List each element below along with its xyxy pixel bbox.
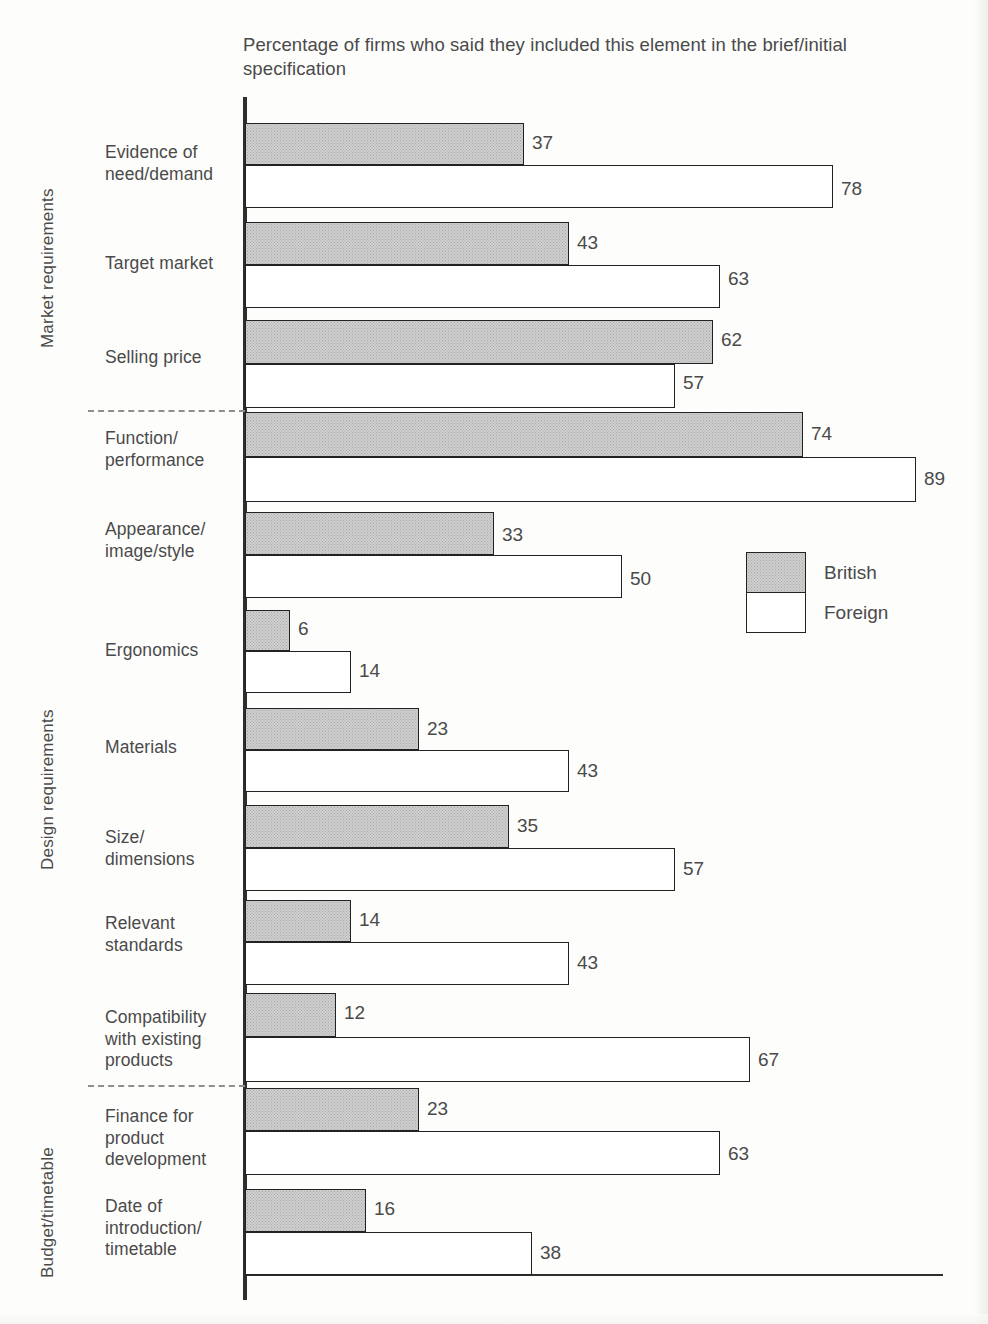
- category-label-line: Date of: [105, 1196, 245, 1218]
- bar-foreign-finance-for-product-development: [245, 1131, 720, 1175]
- category-label-line: Compatibility: [105, 1007, 245, 1029]
- category-label-compatibility-with-existing-products: Compatibility with existing products: [105, 1007, 245, 1072]
- category-label-line: image/style: [105, 541, 245, 563]
- bar-value-british-target-market: 43: [577, 232, 598, 254]
- bar-value-foreign-finance-for-product-development: 63: [728, 1143, 749, 1165]
- legend-swatch-foreign: [746, 592, 806, 633]
- bar-british-selling-price: [245, 320, 713, 364]
- bar-foreign-selling-price: [245, 364, 675, 408]
- bar-foreign-size-dimensions: [245, 848, 675, 891]
- bar-british-function-performance: [245, 412, 803, 457]
- category-label-line: Relevant: [105, 913, 245, 935]
- group-label-budget-timetable: Budget/timetable: [38, 1147, 58, 1278]
- chart-page: Percentage of firms who said they includ…: [0, 0, 988, 1324]
- bar-value-foreign-appearance-image-style: 50: [630, 568, 651, 590]
- bar-foreign-function-performance: [245, 457, 916, 502]
- bar-value-british-evidence-of-need-demand: 37: [532, 132, 553, 154]
- category-label-line: product: [105, 1128, 245, 1150]
- bar-value-british-selling-price: 62: [721, 329, 742, 351]
- category-label-line: Ergonomics: [105, 640, 245, 662]
- bar-value-foreign-size-dimensions: 57: [683, 858, 704, 880]
- legend-label-foreign: Foreign: [824, 602, 888, 624]
- category-label-line: performance: [105, 450, 245, 472]
- category-label-size-dimensions: Size/ dimensions: [105, 827, 245, 870]
- bar-foreign-appearance-image-style: [245, 555, 622, 598]
- group-separator-2: [88, 1085, 245, 1087]
- chart-title: Percentage of firms who said they includ…: [243, 33, 923, 81]
- category-label-line: products: [105, 1050, 245, 1072]
- bar-foreign-evidence-of-need-demand: [245, 165, 833, 208]
- bar-foreign-compatibility-with-existing-products: [245, 1037, 750, 1082]
- category-label-evidence-of-need-demand: Evidence of need/demand: [105, 142, 245, 185]
- category-label-selling-price: Selling price: [105, 347, 245, 369]
- bar-value-british-date-of-introduction-timetable: 16: [374, 1198, 395, 1220]
- category-label-line: Finance for: [105, 1106, 245, 1128]
- bar-british-finance-for-product-development: [245, 1088, 419, 1131]
- bar-value-british-function-performance: 74: [811, 423, 832, 445]
- bar-value-foreign-ergonomics: 14: [359, 660, 380, 682]
- bar-foreign-relevant-standards: [245, 942, 569, 985]
- bar-british-appearance-image-style: [245, 512, 494, 555]
- category-label-appearance-image-style: Appearance/ image/style: [105, 519, 245, 562]
- bar-foreign-ergonomics: [245, 651, 351, 693]
- category-label-line: with existing: [105, 1029, 245, 1051]
- bar-value-foreign-function-performance: 89: [924, 468, 945, 490]
- category-label-line: Evidence of: [105, 142, 245, 164]
- legend-swatch-british: [746, 552, 806, 593]
- bar-value-british-finance-for-product-development: 23: [427, 1098, 448, 1120]
- category-label-line: dimensions: [105, 849, 245, 871]
- category-label-line: Target market: [105, 253, 245, 275]
- category-label-line: standards: [105, 935, 245, 957]
- bar-value-foreign-target-market: 63: [728, 268, 749, 290]
- category-label-line: development: [105, 1149, 245, 1171]
- category-label-line: timetable: [105, 1239, 245, 1261]
- group-separator-1: [88, 410, 245, 412]
- category-label-finance-for-product-development: Finance for product development: [105, 1106, 245, 1171]
- category-label-line: Selling price: [105, 347, 245, 369]
- category-label-target-market: Target market: [105, 253, 245, 275]
- category-label-line: need/demand: [105, 164, 245, 186]
- bar-foreign-target-market: [245, 265, 720, 308]
- bar-british-evidence-of-need-demand: [245, 123, 524, 165]
- bar-british-size-dimensions: [245, 805, 509, 848]
- bar-british-ergonomics: [245, 610, 290, 651]
- page-edge-bottom: [0, 1314, 988, 1324]
- bar-value-british-relevant-standards: 14: [359, 909, 380, 931]
- category-label-line: Appearance/: [105, 519, 245, 541]
- category-label-materials: Materials: [105, 737, 245, 759]
- bar-value-foreign-materials: 43: [577, 760, 598, 782]
- group-label-market-requirements: Market requirements: [38, 188, 58, 348]
- bar-foreign-materials: [245, 750, 569, 792]
- category-label-relevant-standards: Relevant standards: [105, 913, 245, 956]
- bar-british-date-of-introduction-timetable: [245, 1189, 366, 1232]
- bar-value-british-appearance-image-style: 33: [502, 524, 523, 546]
- bar-british-relevant-standards: [245, 900, 351, 942]
- bar-foreign-date-of-introduction-timetable: [245, 1232, 532, 1275]
- bar-british-compatibility-with-existing-products: [245, 993, 336, 1037]
- bar-value-foreign-compatibility-with-existing-products: 67: [758, 1049, 779, 1071]
- bar-value-foreign-relevant-standards: 43: [577, 952, 598, 974]
- category-label-line: Materials: [105, 737, 245, 759]
- category-label-line: introduction/: [105, 1218, 245, 1240]
- bar-british-materials: [245, 708, 419, 750]
- bar-value-british-size-dimensions: 35: [517, 815, 538, 837]
- category-label-line: Size/: [105, 827, 245, 849]
- bar-british-target-market: [245, 222, 569, 265]
- category-label-ergonomics: Ergonomics: [105, 640, 245, 662]
- bar-value-british-ergonomics: 6: [298, 618, 309, 640]
- page-edge-right: [974, 0, 988, 1324]
- category-label-function-performance: Function/ performance: [105, 428, 245, 471]
- bar-value-foreign-date-of-introduction-timetable: 38: [540, 1242, 561, 1264]
- bar-value-foreign-selling-price: 57: [683, 372, 704, 394]
- category-label-date-of-introduction-timetable: Date of introduction/ timetable: [105, 1196, 245, 1261]
- category-label-line: Function/: [105, 428, 245, 450]
- bar-value-foreign-evidence-of-need-demand: 78: [841, 178, 862, 200]
- bar-value-british-compatibility-with-existing-products: 12: [344, 1002, 365, 1024]
- group-label-design-requirements: Design requirements: [38, 709, 58, 870]
- legend-label-british: British: [824, 562, 877, 584]
- bar-value-british-materials: 23: [427, 718, 448, 740]
